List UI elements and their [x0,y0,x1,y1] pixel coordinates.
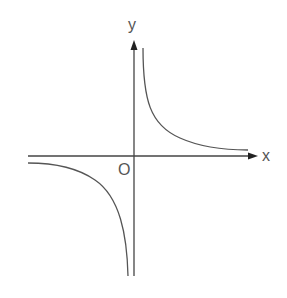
y-axis-label: y [128,16,136,33]
curve-quadrant-3 [28,163,128,276]
x-axis-label: x [262,147,270,164]
y-axis-arrow-icon [131,40,138,50]
curve-quadrant-1 [143,48,248,150]
x-axis-arrow-icon [248,153,258,160]
origin-label: O [118,161,130,178]
hyperbola-graph: y x O [0,0,287,298]
graph-canvas: y x O [0,0,287,298]
